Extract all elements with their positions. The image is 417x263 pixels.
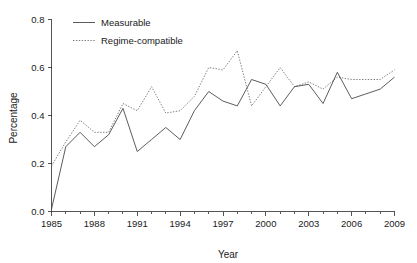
x-tick-label: 2003: [298, 218, 319, 229]
legend-label-regime-compatible: Regime-compatible: [101, 35, 183, 46]
x-tick-label: 1985: [41, 218, 62, 229]
x-tick-label: 1997: [212, 218, 233, 229]
y-tick-label: 0.2: [31, 158, 44, 169]
x-tick-label: 1991: [127, 218, 148, 229]
x-tick-label: 1994: [170, 218, 191, 229]
x-axis-tick-labels: 198519881991199419972000200320062009: [41, 218, 405, 229]
y-tick-label: 0.4: [31, 110, 44, 121]
y-tick-label: 0.0: [31, 206, 44, 217]
x-tick-label: 2006: [341, 218, 362, 229]
x-tick-label: 2000: [255, 218, 276, 229]
legend-label-measurable: Measurable: [101, 17, 151, 28]
x-tick-label: 2009: [384, 218, 405, 229]
line-chart-figure: 0.00.20.40.60.8 Percentage 1985198819911…: [0, 0, 417, 263]
y-tick-label: 0.6: [31, 62, 44, 73]
chart-canvas: 0.00.20.40.60.8 Percentage 1985198819911…: [0, 0, 417, 263]
y-axis-title: Percentage: [8, 92, 19, 144]
x-tick-label: 1988: [84, 218, 105, 229]
y-tick-label: 0.8: [31, 14, 44, 25]
x-axis-title: Year: [218, 249, 239, 260]
